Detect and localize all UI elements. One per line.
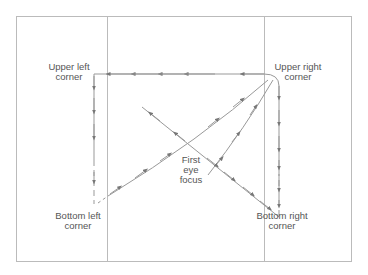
label-line: corner (50, 221, 106, 231)
eye-path-diagram: Upper left corner Upper right corner Fir… (0, 0, 368, 275)
label-line: corner (44, 72, 94, 82)
label-line: focus (176, 175, 206, 185)
label-line: corner (250, 221, 314, 231)
path-right-vertical (264, 74, 279, 217)
label-upper-right-corner: Upper right corner (268, 62, 328, 82)
path-diagonal-down (142, 107, 279, 217)
label-bottom-right-corner: Bottom right corner (250, 211, 314, 231)
path-focus-to-upper-right (208, 80, 273, 175)
label-line: corner (268, 72, 328, 82)
label-bottom-left-corner: Bottom left corner (50, 211, 106, 231)
diagram-canvas (0, 0, 368, 275)
label-upper-left-corner: Upper left corner (44, 62, 94, 82)
label-first-eye-focus: First eye focus (176, 155, 206, 185)
